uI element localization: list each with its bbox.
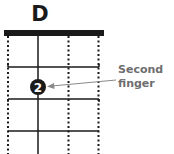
nut	[4, 30, 104, 36]
annotation-line-1: Second	[118, 63, 163, 77]
fret-1	[8, 64, 99, 67]
finger-number: 2	[34, 81, 42, 95]
annotation-line-2: finger	[118, 77, 163, 91]
fret-2	[8, 99, 99, 102]
arrow-icon	[47, 80, 116, 89]
finger-dot: 2	[30, 79, 46, 95]
annotation-label: Second finger	[118, 63, 163, 91]
